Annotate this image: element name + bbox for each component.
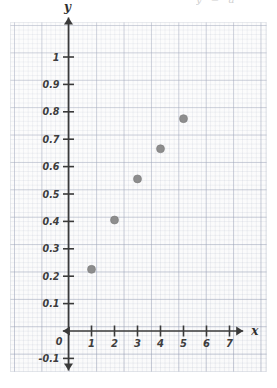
y-axis-arrow-up (64, 17, 73, 24)
y-tick-labels: -0.10.10.20.30.40.50.60.70.80.910 (39, 52, 63, 364)
y-axis-arrow-down (64, 364, 73, 371)
data-point (180, 115, 188, 123)
y-tick-label: 1 (53, 52, 60, 63)
data-point (111, 216, 119, 224)
x-tick-label: 2 (111, 338, 118, 349)
x-tick-label: 3 (134, 338, 141, 349)
x-tick-label: 6 (203, 338, 210, 349)
y-tick-label: 0.5 (43, 189, 60, 200)
axes-group (63, 17, 243, 370)
x-axis-arrow-left (63, 327, 70, 336)
data-point (134, 175, 142, 183)
ticks-group (63, 57, 230, 358)
y-axis-label: y (63, 0, 72, 14)
x-axis-label: x (250, 324, 259, 338)
y-tick-label: -0.1 (39, 353, 60, 364)
y-tick-label: 0.7 (43, 134, 60, 145)
data-points (88, 115, 188, 274)
y-tick-label: 0.2 (43, 271, 60, 282)
scatter-plot: -0.10.10.20.30.40.50.60.70.80.910 123456… (0, 0, 277, 388)
axis-names: xy (63, 0, 259, 338)
y-tick-label: 0.6 (43, 161, 60, 172)
y-tick-label: 0.4 (43, 216, 60, 227)
x-tick-label: 7 (226, 338, 233, 349)
y-tick-label: 0.9 (43, 79, 60, 90)
x-tick-labels: 1234567 (88, 338, 233, 349)
x-tick-label: 1 (88, 338, 95, 349)
origin-label: 0 (56, 336, 63, 347)
y-tick-label: 0.3 (43, 243, 60, 254)
screenshot-root: y = a -0.10.10.20.30.40.50.60.70.80.910 … (0, 0, 277, 388)
data-point (88, 265, 96, 273)
x-tick-label: 5 (180, 338, 187, 349)
y-tick-label: 0.8 (43, 106, 60, 117)
data-point (157, 145, 165, 153)
x-axis-arrow-right (236, 327, 243, 336)
x-tick-label: 4 (156, 338, 164, 349)
y-tick-label: 0.1 (43, 298, 60, 309)
